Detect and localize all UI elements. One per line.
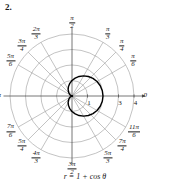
fraction-denominator: 3 <box>103 159 112 166</box>
grid-spoke-315deg <box>72 96 116 140</box>
fraction: 7π6 <box>6 124 15 139</box>
fraction-denominator: 4 <box>118 147 127 154</box>
angle-label-five-pi-over-4: 5π4 <box>17 139 26 154</box>
fraction-denominator: 4 <box>119 47 125 54</box>
angle-label-pi-over-2: π2 <box>69 16 75 31</box>
polar-graph-figure: 2. 0π6π4π3π22π33π45π6π7π65π44π33π25π37π4… <box>0 0 170 192</box>
fraction: 5π3 <box>103 150 112 165</box>
fraction-denominator: 6 <box>6 132 15 139</box>
angle-label-pi-over-6: π6 <box>130 53 136 68</box>
fraction: π3 <box>105 26 111 41</box>
angle-label-seven-pi-over-4: 7π4 <box>118 139 127 154</box>
equation-caption: r = 1 + cos θ <box>0 172 170 181</box>
pole-point <box>71 95 73 97</box>
grid-spoke-60deg <box>72 42 103 96</box>
angle-label-seven-pi-over-6: 7π6 <box>6 124 15 139</box>
angle-label-pi-over-3: π3 <box>105 26 111 41</box>
fraction-denominator: 3 <box>105 34 111 41</box>
fraction-denominator: 3 <box>32 159 41 166</box>
fraction-denominator: 4 <box>17 147 26 154</box>
angle-label-text: π <box>0 92 1 99</box>
polar-plot: 0π6π4π3π22π33π45π6π7π65π44π33π25π37π411π… <box>0 14 170 166</box>
angle-label-pi: π <box>0 92 1 99</box>
radial-tick-label-3: 3 <box>118 100 122 107</box>
fraction: 2π3 <box>32 26 41 41</box>
fraction-denominator: 4 <box>17 46 26 53</box>
fraction-denominator: 6 <box>130 61 136 68</box>
angle-label-text: 0 <box>143 92 147 99</box>
problem-number: 2. <box>5 3 12 12</box>
fraction: 5π6 <box>6 53 15 68</box>
fraction-denominator: 6 <box>128 132 140 139</box>
fraction: π6 <box>130 53 136 68</box>
grid-spoke-210deg <box>18 96 72 127</box>
angle-label-five-pi-over-3: 5π3 <box>103 150 112 165</box>
angle-label-pi-over-4: π4 <box>119 39 125 54</box>
grid-spoke-120deg <box>41 42 72 96</box>
grid-spoke-225deg <box>28 96 72 140</box>
grid-spoke-240deg <box>41 96 72 150</box>
radial-tick-label-4: 4 <box>134 100 138 107</box>
angle-label-four-pi-over-3: 4π3 <box>32 150 41 165</box>
radial-tick-label-1: 1 <box>87 100 91 107</box>
grid-spoke-150deg <box>18 65 72 96</box>
fraction: 7π4 <box>118 139 127 154</box>
angle-label-three-pi-over-4: 3π4 <box>17 38 26 53</box>
angle-label-eleven-pi-over-6: 11π6 <box>128 124 140 139</box>
fraction: 4π3 <box>32 150 41 165</box>
grid-spoke-30deg <box>72 65 126 96</box>
grid-spoke-45deg <box>72 52 116 96</box>
fraction: 11π6 <box>128 124 140 139</box>
grid-spoke-135deg <box>28 52 72 96</box>
fraction-denominator: 2 <box>69 24 75 31</box>
angle-label-zero: 0 <box>143 92 147 99</box>
angle-label-two-pi-over-3: 2π3 <box>32 26 41 41</box>
angle-label-five-pi-over-6: 5π6 <box>6 53 15 68</box>
fraction-denominator: 3 <box>32 34 41 41</box>
fraction: π2 <box>69 16 75 31</box>
fraction: 3π4 <box>17 38 26 53</box>
fraction: π4 <box>119 39 125 54</box>
fraction-denominator: 6 <box>6 61 15 68</box>
fraction: 5π4 <box>17 139 26 154</box>
